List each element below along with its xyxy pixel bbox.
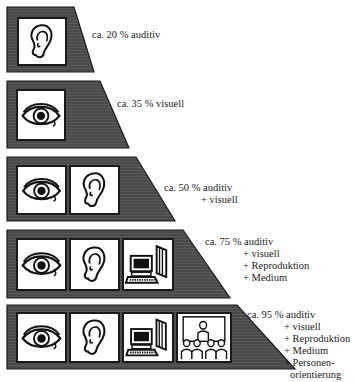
band-line: + Reproduktion [247, 333, 350, 345]
pyramid-band-5: ca. 95 % auditiv + visuell + Reproduktio… [0, 0, 356, 382]
ear-icon [69, 312, 120, 363]
band-line: + visuell [247, 321, 350, 333]
band-line: + Personen- [247, 357, 350, 369]
band-line: + Medium [247, 345, 350, 357]
band-line: orientierung [247, 369, 350, 381]
computer-book-icon [122, 312, 174, 363]
eye-icon [16, 312, 67, 363]
band-label: ca. 95 % auditiv + visuell + Reproduktio… [247, 309, 350, 381]
presenter-audience-icon [176, 312, 232, 363]
band-percent-text: ca. 95 % auditiv [247, 309, 350, 321]
